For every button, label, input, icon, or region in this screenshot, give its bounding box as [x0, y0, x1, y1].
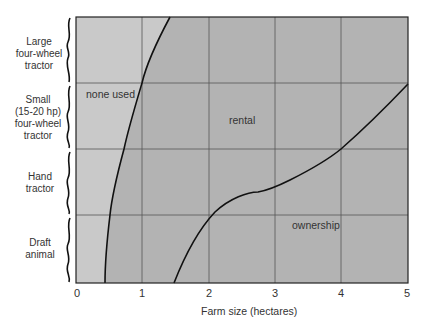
y-label-line: four-wheel — [10, 118, 66, 130]
y-label-line: (15-20 hp) — [10, 106, 66, 118]
y-label-line: four-wheel — [12, 48, 66, 60]
x-tick-1: 1 — [139, 287, 145, 299]
region-label-rental: rental — [229, 114, 255, 126]
y-label-line: Large — [12, 36, 66, 48]
y-label-line: Small — [10, 94, 66, 106]
y-label-line: Draft — [14, 237, 66, 249]
x-tick-3: 3 — [272, 287, 278, 299]
brace-icons — [67, 18, 70, 282]
region-label-ownership: ownership — [292, 219, 340, 231]
x-axis-label: Farm size (hectares) — [201, 305, 297, 317]
x-tick-2: 2 — [206, 287, 212, 299]
y-label-line: tractor — [10, 130, 66, 142]
region-label-none-used: none used — [86, 88, 135, 100]
y-label-line: tractor — [12, 60, 66, 72]
y-label-line: animal — [14, 249, 66, 261]
y-label-line: Hand — [14, 171, 66, 183]
y-label-line: tractor — [14, 183, 66, 195]
y-label-large-four-wheel-tractor: Large four-wheel tractor — [12, 36, 66, 72]
x-tick-5: 5 — [404, 287, 410, 299]
y-label-draft-animal: Draft animal — [14, 237, 66, 261]
x-tick-0: 0 — [74, 287, 80, 299]
x-tick-4: 4 — [338, 287, 344, 299]
y-label-hand-tractor: Hand tractor — [14, 171, 66, 195]
y-label-small-four-wheel-tractor: Small (15-20 hp) four-wheel tractor — [10, 94, 66, 142]
